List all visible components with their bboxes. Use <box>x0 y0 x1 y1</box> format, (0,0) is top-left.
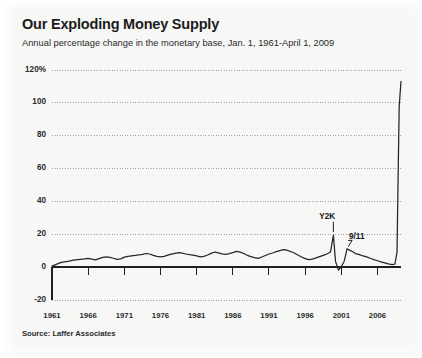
y-axis-tick-label: 20 <box>12 229 46 238</box>
y-axis-tick-label: 100 <box>12 97 46 106</box>
y-axis-tick-label: 0 <box>12 262 46 271</box>
chart-source: Source: Laffer Associates <box>22 329 115 338</box>
x-axis-tick-label: 1961 <box>32 311 72 320</box>
y-axis-tick-label: 120% <box>12 65 46 74</box>
x-axis-tick-label: 1976 <box>140 311 180 320</box>
data-series <box>52 82 401 271</box>
y-axis-tick-label: 80 <box>12 130 46 139</box>
x-axis-tick-label: 1981 <box>177 311 217 320</box>
x-axis-tick-label: 1971 <box>104 311 144 320</box>
x-axis-tick-label: 1996 <box>285 311 325 320</box>
y-axis-tick-label: 40 <box>12 196 46 205</box>
x-axis-ticks <box>52 267 377 275</box>
plot-area: -20020406080100120% 19611966197119761981… <box>0 0 422 358</box>
x-axis-tick-label: 1966 <box>68 311 108 320</box>
gridlines <box>52 70 401 300</box>
axis-lines <box>52 267 401 300</box>
annotation-y2k: Y2K <box>319 212 335 221</box>
y-axis-tick-label: -20 <box>12 295 46 304</box>
annotation-9-11: 9/11 <box>349 232 364 241</box>
chart-canvas <box>0 0 422 358</box>
chart-figure: Our Exploding Money Supply Annual percen… <box>0 0 422 358</box>
x-axis-tick-label: 1991 <box>249 311 289 320</box>
y-axis-tick-label: 60 <box>12 163 46 172</box>
x-axis-tick-label: 2006 <box>357 311 397 320</box>
x-axis-tick-label: 1986 <box>213 311 253 320</box>
x-axis-tick-label: 2001 <box>321 311 361 320</box>
